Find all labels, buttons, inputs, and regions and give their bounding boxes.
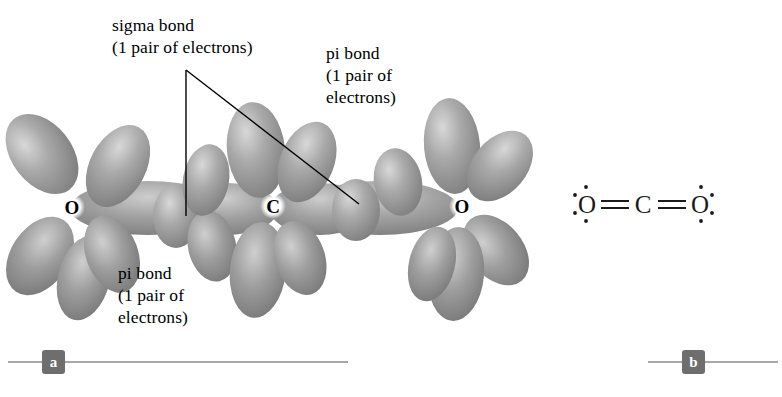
pi-bond-bottom-label: pi bond (1 pair of electrons) bbox=[118, 262, 188, 328]
part-a-badge: a bbox=[42, 350, 65, 374]
lewis-atom-left-oxygen: O bbox=[578, 191, 596, 218]
atom-label-left-oxygen: O bbox=[65, 197, 80, 218]
sigma-bond-label: sigma bond (1 pair of electrons) bbox=[112, 14, 253, 58]
part-b-badge: b bbox=[682, 350, 705, 374]
lewis-bond-left-double bbox=[601, 201, 629, 208]
lewis-structure: O C O bbox=[566, 182, 746, 228]
lewis-atom-right-oxygen: O bbox=[691, 191, 709, 218]
figure-canvas: O C O sigma bond (1 pair of electrons) p… bbox=[0, 0, 782, 397]
orbital-overlap-diagram: O C O bbox=[0, 88, 545, 336]
lewis-bond-right-double bbox=[658, 201, 686, 208]
atom-label-carbon: C bbox=[266, 196, 280, 217]
atom-label-right-oxygen: O bbox=[455, 196, 470, 217]
lewis-atom-carbon: C bbox=[635, 191, 652, 218]
pi-bond-top-label: pi bond (1 pair of electrons) bbox=[326, 42, 396, 108]
part-b-rule bbox=[648, 361, 778, 363]
